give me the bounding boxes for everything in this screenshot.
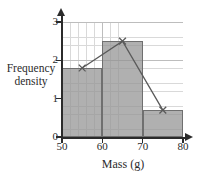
data-point-marker (79, 65, 86, 72)
y-axis-title-line-2: density (1, 75, 61, 88)
data-point-marker (159, 107, 166, 114)
polygon-line (82, 41, 163, 110)
plot-area (62, 22, 183, 137)
y-tick-label: 3 (44, 16, 58, 27)
x-tick-label: 70 (131, 140, 155, 152)
y-axis-title-line-1: Frequency (1, 62, 61, 75)
x-axis-title: Mass (g) (68, 158, 178, 171)
x-tick-label: 50 (50, 140, 74, 152)
x-tick-label: 80 (171, 140, 195, 152)
x-axis-line (61, 137, 189, 139)
frequency-polygon (62, 22, 183, 137)
y-axis-arrow-icon (57, 8, 65, 16)
y-axis-line (61, 14, 63, 139)
histogram-chart: 0123 50607080 Frequency density Mass (g) (0, 0, 198, 177)
y-axis-title: Frequency density (1, 62, 61, 88)
data-point-marker (119, 38, 126, 45)
y-tick-label: 1 (44, 93, 58, 104)
x-tick-label: 60 (90, 140, 114, 152)
